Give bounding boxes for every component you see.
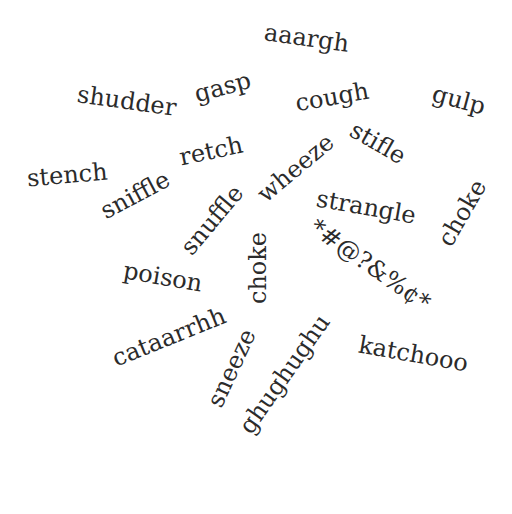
word-cataarrhh: cataarrhh bbox=[109, 303, 229, 370]
word-symbols-curse: *#@?&%¢* bbox=[306, 215, 435, 315]
word-aaargh: aaargh bbox=[262, 20, 350, 56]
word-poison: poison bbox=[122, 258, 205, 295]
word-ghughughu: ghughughu bbox=[234, 310, 333, 438]
word-gasp: gasp bbox=[191, 68, 253, 106]
word-cough: cough bbox=[293, 79, 370, 116]
word-cloud: aaargh shudder gasp cough gulp retch sti… bbox=[0, 0, 512, 514]
word-snuffle: snuffle bbox=[176, 181, 247, 259]
word-gulp: gulp bbox=[430, 81, 488, 118]
word-katchooo: katchooo bbox=[356, 333, 469, 376]
word-choke-right: choke bbox=[434, 176, 491, 250]
word-stench: stench bbox=[26, 160, 108, 191]
word-retch: retch bbox=[177, 133, 245, 170]
word-sniffle: sniffle bbox=[97, 167, 174, 223]
word-choke-center: choke bbox=[246, 232, 270, 304]
word-shudder: shudder bbox=[76, 82, 178, 120]
word-stifle: stifle bbox=[346, 118, 410, 169]
